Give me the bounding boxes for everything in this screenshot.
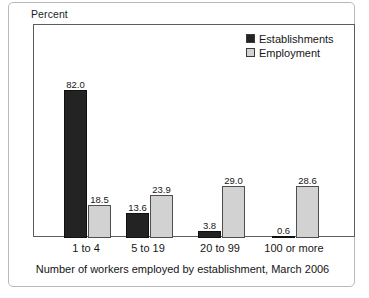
bar-establishments: 13.6 [126, 213, 149, 238]
x-axis-caption: Number of workers employed by establishm… [9, 262, 356, 276]
bar-value-label: 28.6 [298, 175, 317, 186]
bar-establishments: 3.8 [198, 231, 221, 238]
bar-value-label: 82.0 [66, 79, 85, 90]
bar-value-label: 23.9 [152, 184, 171, 195]
category-axis-label: 100 or more [264, 241, 323, 255]
category-axis-label: 20 to 99 [200, 241, 240, 255]
y-axis-label: Percent [31, 8, 68, 20]
bar-group: 3.829.0 [198, 25, 245, 238]
bar-value-label: 0.6 [277, 225, 290, 236]
bars-layer: 82.018.513.623.93.829.00.628.6 [34, 25, 356, 238]
chart-outer-frame: Percent Establishments Employment 82.018… [8, 2, 355, 287]
bar-group: 82.018.5 [64, 25, 111, 238]
bar-group: 0.628.6 [272, 25, 319, 238]
bar-establishments: 0.6 [272, 236, 295, 238]
bar-group: 13.623.9 [126, 25, 173, 238]
bar-employment: 29.0 [222, 186, 245, 238]
bar-establishments: 82.0 [64, 90, 87, 238]
plot-area: Establishments Employment 82.018.513.623… [33, 24, 355, 237]
bar-value-label: 3.8 [203, 220, 216, 231]
bar-value-label: 18.5 [90, 194, 109, 205]
bar-value-label: 13.6 [128, 202, 147, 213]
bar-employment: 23.9 [150, 195, 173, 238]
bar-value-label: 29.0 [224, 175, 243, 186]
category-axis: 1 to 45 to 1920 to 99100 or more [33, 241, 355, 257]
bar-employment: 28.6 [296, 186, 319, 238]
category-axis-label: 1 to 4 [72, 241, 100, 255]
category-axis-label: 5 to 19 [131, 241, 165, 255]
bar-employment: 18.5 [88, 205, 111, 238]
